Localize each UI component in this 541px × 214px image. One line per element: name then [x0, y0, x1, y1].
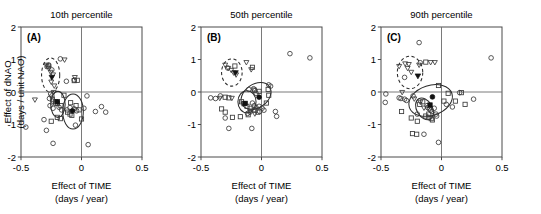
- x-axis-label-line2: (days / year): [415, 193, 468, 204]
- panel-plot: 90th percentile-0.500.5210-1-2(C)Effect …: [360, 0, 540, 214]
- x-tick-label: 0.5: [495, 162, 508, 173]
- y-tick-label: -1: [188, 119, 196, 130]
- x-axis-label-line2: (days / year): [235, 193, 288, 204]
- panel-letter: (B): [207, 32, 221, 43]
- panel-title: 10th percentile: [50, 9, 112, 20]
- x-tick-label: 0: [79, 162, 84, 173]
- x-tick-label: -0.5: [193, 162, 209, 173]
- panel-plot: 50th percentile-0.500.5210-1-2(B)Effect …: [180, 0, 360, 214]
- data-point-triangle-down: [32, 98, 37, 102]
- data-point-circle: [44, 128, 49, 133]
- y-tick-label: -2: [188, 152, 196, 163]
- y-tick-label: 0: [191, 87, 196, 98]
- y-tick-label: 2: [11, 22, 16, 33]
- y-tick-label: 0: [371, 87, 376, 98]
- data-point-square: [49, 119, 53, 123]
- data-point-triangle-down: [244, 61, 249, 65]
- x-axis-label-line1: Effect of TIME: [412, 180, 472, 191]
- data-point-square: [233, 64, 237, 68]
- data-point-circle: [417, 40, 422, 45]
- x-axis-label-line1: Effect of TIME: [232, 180, 292, 191]
- data-point-triangle-down: [432, 61, 437, 65]
- data-point-circle: [48, 103, 53, 108]
- y-axis-label-line2: (days / unit NAO): [15, 56, 26, 129]
- x-tick-label: 0.5: [315, 162, 328, 173]
- data-point-square: [463, 102, 467, 106]
- data-point-triangle-down: [52, 84, 57, 88]
- x-tick-label: 0: [259, 162, 264, 173]
- data-point-circle: [308, 56, 313, 61]
- data-point-circle: [450, 105, 455, 110]
- data-point-triangle-down: [249, 68, 254, 72]
- data-point-circle: [42, 117, 47, 122]
- data-point-circle: [51, 141, 56, 146]
- data-point-square: [69, 101, 73, 105]
- x-tick-label: -0.5: [13, 162, 29, 173]
- x-tick-label: 0.5: [135, 162, 148, 173]
- y-tick-label: -2: [368, 152, 376, 163]
- data-point-circle: [274, 114, 279, 119]
- panel-a: 10th percentile-0.500.5210-1-2(A)Effect …: [0, 0, 180, 214]
- mean-marker-square: [243, 101, 247, 105]
- data-point-circle: [93, 109, 98, 114]
- y-tick-label: -2: [8, 152, 16, 163]
- data-point-square: [399, 109, 403, 113]
- data-point-circle: [82, 106, 87, 111]
- data-point-triangle-down: [62, 58, 67, 62]
- data-layer: [383, 40, 493, 144]
- data-point-square: [238, 115, 242, 119]
- mean-marker-circle: [257, 95, 262, 100]
- data-point-circle: [73, 123, 78, 128]
- data-point-triangle-down: [409, 70, 414, 74]
- y-tick-label: 1: [191, 54, 196, 65]
- data-point-circle: [223, 116, 228, 121]
- data-point-circle: [436, 140, 441, 145]
- data-point-circle: [64, 79, 69, 84]
- data-point-square: [415, 119, 419, 123]
- data-point-triangle-down: [400, 90, 405, 94]
- data-point-square: [453, 99, 457, 103]
- data-point-circle: [288, 51, 293, 56]
- data-point-circle: [383, 100, 388, 105]
- panel-b: 50th percentile-0.500.5210-1-2(B)Effect …: [180, 0, 360, 214]
- panel-plot: 10th percentile-0.500.5210-1-2(A)Effect …: [0, 0, 180, 214]
- figure-container: 10th percentile-0.500.5210-1-2(A)Effect …: [0, 0, 541, 214]
- x-tick-label: 0: [439, 162, 444, 173]
- mean-marker-square: [55, 100, 59, 104]
- data-point-circle: [471, 97, 476, 102]
- data-point-circle: [99, 104, 104, 109]
- data-point-circle: [58, 57, 63, 62]
- data-point-square: [415, 132, 419, 136]
- x-axis-label-line1: Effect of TIME: [52, 180, 112, 191]
- data-point-circle: [422, 132, 427, 137]
- data-point-circle: [402, 75, 407, 80]
- y-tick-label: -1: [368, 119, 376, 130]
- data-layer: [208, 51, 312, 130]
- mean-marker-triangle-down: [49, 75, 55, 80]
- data-point-circle: [85, 94, 90, 99]
- data-point-square: [230, 115, 234, 119]
- y-tick-label: 1: [371, 54, 376, 65]
- mean-marker-circle: [70, 108, 75, 113]
- data-layer: [24, 57, 108, 147]
- panel-title: 90th percentile: [410, 9, 472, 20]
- data-point-circle: [227, 126, 232, 131]
- mean-marker-triangle-down: [415, 74, 421, 79]
- panel-c: 90th percentile-0.500.5210-1-2(C)Effect …: [360, 0, 540, 214]
- data-point-circle: [208, 96, 213, 101]
- y-tick-label: 2: [191, 22, 196, 33]
- data-point-circle: [86, 142, 91, 147]
- data-point-square: [436, 83, 440, 87]
- data-point-circle: [250, 126, 255, 131]
- data-point-circle: [103, 110, 108, 115]
- data-point-circle: [273, 109, 278, 114]
- data-point-square: [409, 116, 413, 120]
- mean-marker-circle: [430, 94, 435, 99]
- y-axis-label-line1: Effect of dNAO: [2, 60, 13, 123]
- panel-title: 50th percentile: [230, 9, 292, 20]
- data-point-circle: [489, 56, 494, 61]
- x-tick-label: -0.5: [373, 162, 389, 173]
- panel-letter: (C): [387, 32, 401, 43]
- data-point-square: [424, 60, 428, 64]
- mean-marker-square: [428, 103, 432, 107]
